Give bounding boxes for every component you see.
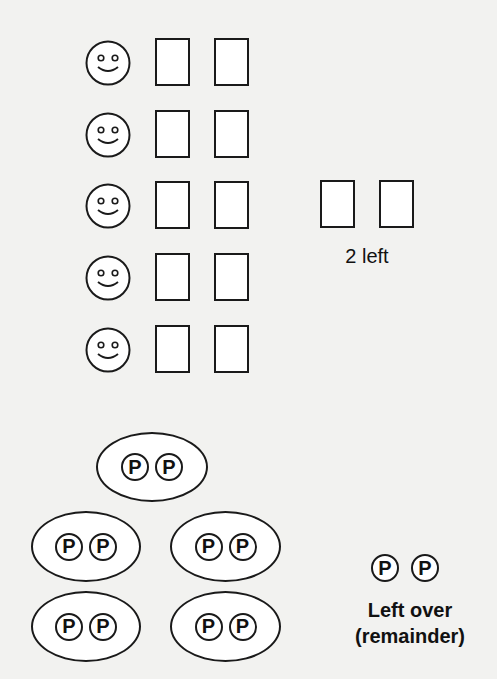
card bbox=[214, 110, 249, 158]
p-token-icon: P bbox=[229, 533, 257, 561]
smiley-icon bbox=[85, 40, 131, 86]
smiley-icon bbox=[85, 112, 131, 158]
p-token-icon: P bbox=[229, 613, 257, 641]
leftover-cards-label: 2 left bbox=[320, 245, 414, 268]
token-group: P P bbox=[31, 591, 141, 662]
card bbox=[155, 253, 190, 301]
leftover-label-line2: (remainder) bbox=[335, 623, 485, 649]
card bbox=[155, 325, 190, 373]
smiley-icon bbox=[85, 255, 131, 301]
p-token-icon: P bbox=[155, 453, 183, 481]
leftover-tokens: P P bbox=[371, 554, 439, 582]
p-token-icon: P bbox=[121, 453, 149, 481]
p-token-icon: P bbox=[371, 554, 399, 582]
p-token-icon: P bbox=[89, 613, 117, 641]
leftover-label-line1: Left over bbox=[335, 597, 485, 623]
smiley-icon bbox=[85, 183, 131, 229]
leftover-label: Left over (remainder) bbox=[335, 597, 485, 649]
card bbox=[214, 325, 249, 373]
leftover-card bbox=[320, 180, 355, 228]
token-group: P P bbox=[170, 591, 281, 662]
card bbox=[214, 181, 249, 229]
card bbox=[214, 38, 249, 86]
token-group: P P bbox=[96, 432, 208, 502]
p-token-icon: P bbox=[55, 613, 83, 641]
p-token-icon: P bbox=[55, 533, 83, 561]
card bbox=[155, 38, 190, 86]
leftover-card bbox=[379, 180, 414, 228]
token-group: P P bbox=[170, 511, 281, 582]
p-token-icon: P bbox=[195, 613, 223, 641]
p-token-icon: P bbox=[89, 533, 117, 561]
smiley-icon bbox=[85, 327, 131, 373]
p-token-icon: P bbox=[195, 533, 223, 561]
p-token-icon: P bbox=[411, 554, 439, 582]
card bbox=[155, 181, 190, 229]
card bbox=[214, 253, 249, 301]
token-group: P P bbox=[31, 511, 141, 582]
card bbox=[155, 110, 190, 158]
